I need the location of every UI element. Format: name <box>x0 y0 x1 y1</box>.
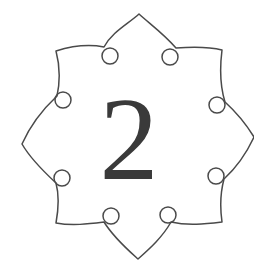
chapter-numeral: 2 <box>0 0 254 273</box>
